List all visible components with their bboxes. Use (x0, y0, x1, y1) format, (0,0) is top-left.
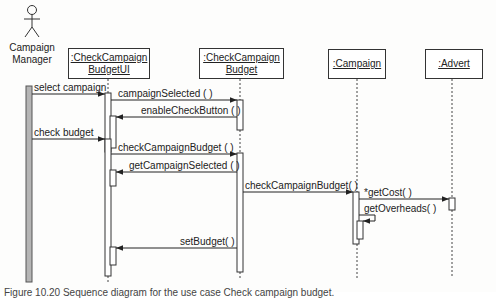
object-name-line2: BudgetUI (88, 64, 130, 76)
actor-name-line1: Campaign (2, 42, 62, 54)
actor-name-line2: Manager (2, 54, 62, 66)
object-name: :Advert (438, 58, 470, 70)
activation-campaign-nested (357, 221, 363, 239)
object-name-line2: Budget (226, 64, 258, 76)
object-box-budget: :CheckCampaign Budget (199, 48, 284, 79)
msg-label-set-budget: setBudget( ) (180, 236, 234, 247)
activation-budget-ui-2-nested-b (110, 247, 116, 265)
msg-label-enable-check-button: enableCheckButton ( ) (141, 105, 241, 116)
msg-label-check-campaign-budget-2: checkCampaignBudget( ) (245, 180, 358, 191)
figure-caption: Figure 10.20 Sequence diagram for the us… (4, 287, 334, 298)
activation-budget-ui-2-nested-a (110, 170, 116, 186)
object-box-campaign: :Campaign (328, 49, 386, 79)
msg-get-overheads-self-arrow (359, 215, 375, 221)
actor-label: Campaign Manager (2, 42, 62, 66)
object-name-line1: :CheckCampaign (71, 52, 148, 64)
actor-stick-figure-icon (24, 6, 40, 38)
msg-label-select-campaign: select campaign (34, 82, 106, 93)
msg-label-get-overheads: getOverheads( ) (364, 203, 436, 214)
object-name-line1: :CheckCampaign (203, 52, 280, 64)
activation-advert (449, 198, 455, 210)
object-box-budget-ui: :CheckCampaign BudgetUI (68, 48, 150, 79)
object-box-advert: :Advert (425, 49, 483, 79)
msg-label-campaign-selected: campaignSelected ( ) (118, 88, 213, 99)
msg-label-get-campaign-selected: getCampaignSelected ( ) (129, 160, 240, 171)
object-name: :Campaign (333, 58, 381, 70)
msg-label-check-campaign-budget: checkCampaignBudget ( ) (118, 142, 234, 153)
msg-label-get-cost: *getCost( ) (364, 187, 412, 198)
actor-activation-bar (26, 86, 32, 282)
msg-label-check-budget: check budget (34, 127, 94, 138)
